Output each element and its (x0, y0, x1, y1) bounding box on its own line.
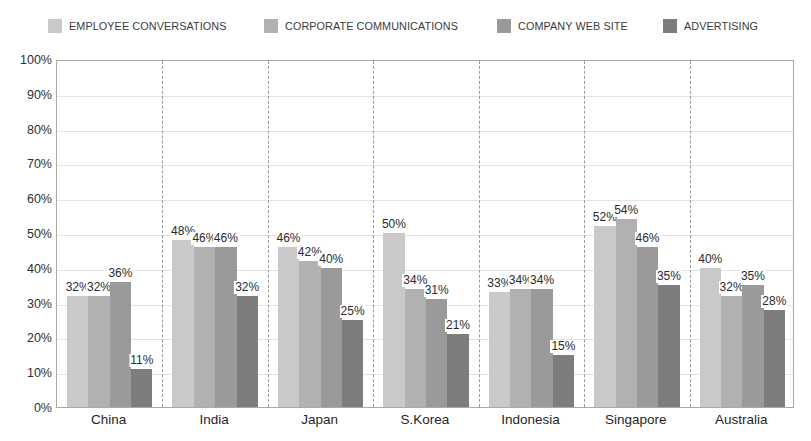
bar[interactable] (88, 296, 109, 407)
bar-slot: 32% (721, 60, 742, 407)
bar[interactable] (172, 240, 193, 407)
bar[interactable] (405, 289, 426, 407)
bar[interactable] (215, 247, 236, 407)
bar[interactable] (278, 247, 299, 407)
bar-slot: 42% (299, 60, 320, 407)
bar-value-label: 35% (740, 270, 766, 283)
bar[interactable] (594, 226, 615, 407)
bar-slot: 50% (383, 60, 404, 407)
bar-value-label: 50% (381, 218, 407, 231)
x-axis: ChinaIndiaJapanS.KoreaIndonesiaSingapore… (56, 408, 794, 438)
bar-group: 46%42%40%25% (268, 60, 373, 407)
bar-value-label: 34% (529, 274, 555, 287)
bar[interactable] (299, 261, 320, 407)
bar-value-label: 25% (340, 305, 366, 318)
bar[interactable] (616, 219, 637, 407)
plot-area: 32%32%36%11%48%46%46%32%46%42%40%25%50%3… (56, 60, 794, 441)
y-axis-tick-label: 20% (2, 331, 52, 345)
bar-value-label: 40% (318, 253, 344, 266)
bar-value-label: 54% (613, 204, 639, 217)
y-axis-tick-label: 10% (2, 366, 52, 380)
legend-item[interactable]: CORPORATE COMMUNICATIONS (264, 19, 469, 33)
bar-slot: 32% (237, 60, 258, 407)
bar-value-label: 40% (697, 253, 723, 266)
bar[interactable] (321, 268, 342, 407)
bar[interactable] (489, 292, 510, 407)
bar[interactable] (553, 355, 574, 407)
bar-slot: 15% (553, 60, 574, 407)
bar-value-label: 31% (424, 284, 450, 297)
bar-group: 52%54%46%35% (584, 60, 689, 407)
bar[interactable] (426, 299, 447, 407)
y-axis-tick-label: 40% (2, 262, 52, 276)
x-axis-category-label: S.Korea (372, 412, 477, 427)
chart-legend: EMPLOYEE CONVERSATIONSCORPORATE COMMUNIC… (0, 16, 811, 36)
x-axis-category-label: China (56, 412, 161, 427)
bar-slot: 31% (426, 60, 447, 407)
bar-slot: 25% (342, 60, 363, 407)
x-axis-category-label: Singapore (583, 412, 688, 427)
x-axis-category-label: Australia (689, 412, 794, 427)
bar-slot: 35% (658, 60, 679, 407)
bar-value-label: 28% (761, 295, 787, 308)
x-axis-category-label: Japan (267, 412, 372, 427)
legend-item[interactable]: COMPANY WEB SITE (497, 19, 635, 33)
bar-value-label: 32% (86, 281, 112, 294)
x-axis-category-label: Indonesia (478, 412, 583, 427)
bar-group: 32%32%36%11% (57, 60, 162, 407)
legend-item[interactable]: ADVERTISING (663, 19, 763, 33)
y-axis-tick-label: 100% (2, 53, 52, 67)
bar-slot: 46% (278, 60, 299, 407)
bar-slot: 52% (594, 60, 615, 407)
bar[interactable] (342, 320, 363, 407)
legend-item-label: CORPORATE COMMUNICATIONS (285, 20, 458, 32)
bar-group: 33%34%34%15% (479, 60, 584, 407)
bar-slot: 32% (67, 60, 88, 407)
bar-value-label: 35% (656, 270, 682, 283)
bar[interactable] (131, 369, 152, 407)
bar[interactable] (510, 289, 531, 407)
y-axis-tick-label: 50% (2, 227, 52, 241)
legend-swatch-icon (48, 19, 62, 33)
bar-value-label: 46% (276, 232, 302, 245)
bar-value-label: 15% (550, 340, 576, 353)
y-axis: 100%90%80%70%60%50%40%30%20%10%0% (0, 60, 52, 408)
plot-frame: 32%32%36%11%48%46%46%32%46%42%40%25%50%3… (56, 60, 794, 408)
legend-swatch-icon (497, 19, 511, 33)
bar-slot: 40% (700, 60, 721, 407)
bar-value-label: 21% (445, 319, 471, 332)
x-axis-category-label: India (161, 412, 266, 427)
legend-swatch-icon (264, 19, 278, 33)
bar[interactable] (721, 296, 742, 407)
bar-slot: 36% (110, 60, 131, 407)
bar-group: 48%46%46%32% (162, 60, 267, 407)
bar[interactable] (194, 247, 215, 407)
legend-item-label: ADVERTISING (684, 20, 758, 32)
bar[interactable] (67, 296, 88, 407)
bar-slot: 34% (510, 60, 531, 407)
y-axis-tick-label: 60% (2, 192, 52, 206)
bar-slot: 21% (447, 60, 468, 407)
y-axis-tick-label: 90% (2, 88, 52, 102)
bar[interactable] (237, 296, 258, 407)
y-axis-tick-label: 70% (2, 157, 52, 171)
y-axis-tick-label: 80% (2, 123, 52, 137)
y-axis-tick-label: 30% (2, 297, 52, 311)
bar[interactable] (658, 285, 679, 407)
bar-slot: 46% (637, 60, 658, 407)
bar[interactable] (447, 334, 468, 407)
legend-item-label: COMPANY WEB SITE (518, 20, 628, 32)
bar-value-label: 46% (635, 232, 661, 245)
bar-value-label: 11% (129, 354, 154, 367)
bar-group: 40%32%35%28% (690, 60, 794, 407)
bar[interactable] (110, 282, 131, 407)
bar-slot: 35% (742, 60, 763, 407)
bar-slot: 28% (764, 60, 785, 407)
bar-slot: 34% (531, 60, 552, 407)
legend-swatch-icon (663, 19, 677, 33)
bar[interactable] (383, 233, 404, 407)
legend-item[interactable]: EMPLOYEE CONVERSATIONS (48, 19, 237, 33)
bar-slot: 46% (215, 60, 236, 407)
bar-value-label: 32% (234, 281, 260, 294)
bar[interactable] (764, 310, 785, 407)
